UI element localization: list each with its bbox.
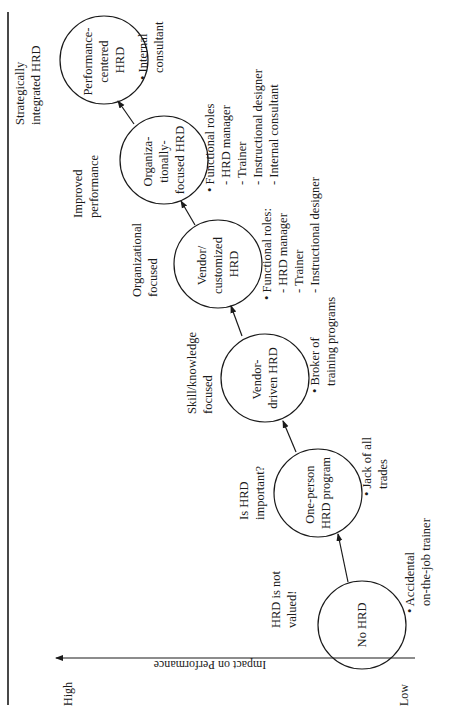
stage-roles: • Functional roles - HRD manager - Train…: [203, 66, 281, 192]
stage-node-label: Vendor- driven HRD: [250, 347, 280, 408]
hrd-stages-diagram: High Low Impact on Performance No HRD HR…: [0, 0, 467, 723]
stage-roles: • Accidental on-the-job trainer: [403, 517, 433, 613]
stage-roles: • Internal consultant: [136, 21, 166, 80]
axis-low-label: Low: [397, 684, 411, 706]
stage-node-label: No HRD: [355, 603, 369, 648]
stage-no-hrd: No HRD HRD is not valued! • Accidental o…: [269, 517, 433, 669]
stage-question: Improved performance: [71, 154, 101, 218]
stage-question: HRD is not valued!: [269, 568, 299, 628]
stage-node-label: One-person HRD program: [303, 457, 333, 529]
stage-vendor-customized-hrd: Vendor/ customized HRD Organizational fo…: [130, 176, 322, 308]
stage-one-person-hrd: One-person HRD program Is HRD important?…: [237, 434, 390, 537]
arrow-stage2-to-3: [283, 421, 296, 452]
stage-roles: • Broker of training programs: [308, 297, 338, 393]
arrow-stage5-to-6: [118, 101, 134, 124]
stage-question: Skill/knowledge focused: [185, 329, 215, 414]
axis-title: Impact on Performance: [154, 658, 267, 672]
stage-performance-centered-hrd: Performance- centered HRD Strategically …: [13, 16, 166, 125]
stage-node-circle: [274, 449, 362, 537]
arrow-stage3-to-4: [231, 306, 242, 336]
stage-question: Organizational focused: [130, 220, 160, 297]
stage-vendor-driven-hrd: Vendor- driven HRD Skill/knowledge focus…: [185, 297, 338, 422]
arrow-stage4-to-5: [181, 201, 195, 225]
stage-node-label: Performance- centered HRD: [81, 24, 127, 95]
axis-high-label: High: [61, 682, 75, 706]
stage-node-label: Vendor/ customized HRD: [195, 234, 241, 294]
stage-roles: • Functional roles: - HRD manager - Trai…: [260, 176, 322, 300]
stage-node-circle: [221, 334, 309, 422]
stage-question: Is HRD important?: [237, 465, 267, 520]
stage-organizationally-focused-hrd: Organiza- tionally- focused HRD Improved…: [71, 66, 281, 218]
stage-roles: • Jack of all trades: [360, 434, 390, 496]
stage-node-label: Organiza- tionally- focused HRD: [141, 126, 187, 194]
stage-question: Strategically integrated HRD: [13, 46, 43, 126]
arrow-stage1-to-2: [338, 534, 348, 582]
